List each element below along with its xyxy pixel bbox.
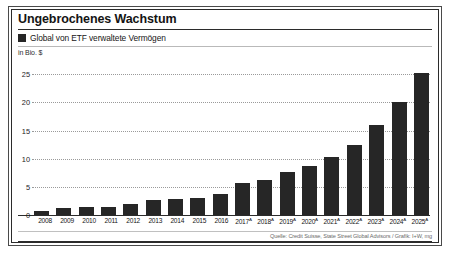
gridline-0 — [18, 215, 430, 216]
forecast-marker-icon: A — [293, 217, 296, 222]
legend-swatch-icon — [18, 34, 26, 42]
y-axis-tick-20: 20 — [18, 98, 30, 107]
y-axis-tick-10: 10 — [18, 155, 30, 164]
x-axis-label-2014: 2014 — [166, 217, 188, 225]
bar-2009 — [56, 208, 71, 215]
chart-legend: Global von ETF verwaltete Vermögen — [18, 31, 166, 45]
bar-2023 — [369, 125, 384, 215]
x-axis-label-2013: 2013 — [144, 217, 166, 225]
bar-2020 — [302, 166, 317, 215]
page-title: Ungebrochenes Wachstum — [18, 12, 176, 26]
x-axis-label-2024: 2024A — [387, 217, 409, 225]
x-axis-label-2009: 2009 — [56, 217, 78, 225]
legend-divider — [18, 46, 432, 47]
x-axis-label-2010: 2010 — [78, 217, 100, 225]
x-axis-label-2018: 2018A — [254, 217, 276, 225]
bar-2025 — [414, 73, 429, 215]
bar-2012 — [123, 204, 138, 215]
x-axis-label-2016: 2016 — [210, 217, 232, 225]
y-axis-tick-15: 15 — [18, 127, 30, 136]
axis-unit-label: in Bio. $ — [18, 49, 42, 56]
forecast-marker-icon: A — [315, 217, 318, 222]
bar-2019 — [280, 172, 295, 215]
x-axis-label-2023: 2023A — [365, 217, 387, 225]
bar-2022 — [347, 145, 362, 215]
source-divider — [18, 231, 432, 232]
bar-2008 — [34, 211, 49, 216]
x-axis-label-2017: 2017A — [232, 217, 254, 225]
bar-2021 — [324, 157, 339, 215]
x-axis-label-2025: 2025A — [409, 217, 431, 225]
chart-figure: Ungebrochenes Wachstum Global von ETF ve… — [8, 6, 442, 246]
bar-2017 — [235, 183, 250, 215]
bottom-divider — [18, 241, 432, 242]
legend-label: Global von ETF verwaltete Vermögen — [30, 33, 166, 43]
x-axis-label-2008: 2008 — [34, 217, 56, 225]
x-axis-label-2019: 2019A — [277, 217, 299, 225]
forecast-marker-icon: A — [359, 217, 362, 222]
bar-2010 — [79, 207, 94, 215]
bar-2014 — [168, 199, 183, 215]
title-divider — [18, 29, 432, 30]
y-axis-tick-0: 0 — [18, 211, 30, 220]
forecast-marker-icon: A — [337, 217, 340, 222]
source-note: Quelle: Credit Suisse, State Street Glob… — [270, 233, 432, 239]
forecast-marker-icon: A — [425, 217, 428, 222]
forecast-marker-icon: A — [249, 217, 252, 222]
bar-series — [34, 63, 429, 215]
forecast-marker-icon: A — [271, 217, 274, 222]
x-axis-label-2015: 2015 — [188, 217, 210, 225]
bar-2024 — [392, 102, 407, 215]
forecast-marker-icon: A — [403, 217, 406, 222]
y-axis-tick-25: 25 — [18, 70, 30, 79]
bar-2016 — [213, 194, 228, 215]
bar-2011 — [101, 207, 116, 215]
x-axis-label-2012: 2012 — [122, 217, 144, 225]
plot-area: 0510152025 — [18, 63, 430, 215]
x-axis-labels: 2008200920102011201220132014201520162017… — [34, 217, 431, 225]
bar-2015 — [190, 198, 205, 215]
bar-2018 — [257, 180, 272, 215]
bar-2013 — [146, 200, 161, 215]
x-axis-label-2021: 2021A — [321, 217, 343, 225]
x-axis-label-2022: 2022A — [343, 217, 365, 225]
y-axis-tick-5: 5 — [18, 183, 30, 192]
forecast-marker-icon: A — [381, 217, 384, 222]
x-axis-label-2020: 2020A — [299, 217, 321, 225]
x-axis-label-2011: 2011 — [100, 217, 122, 225]
